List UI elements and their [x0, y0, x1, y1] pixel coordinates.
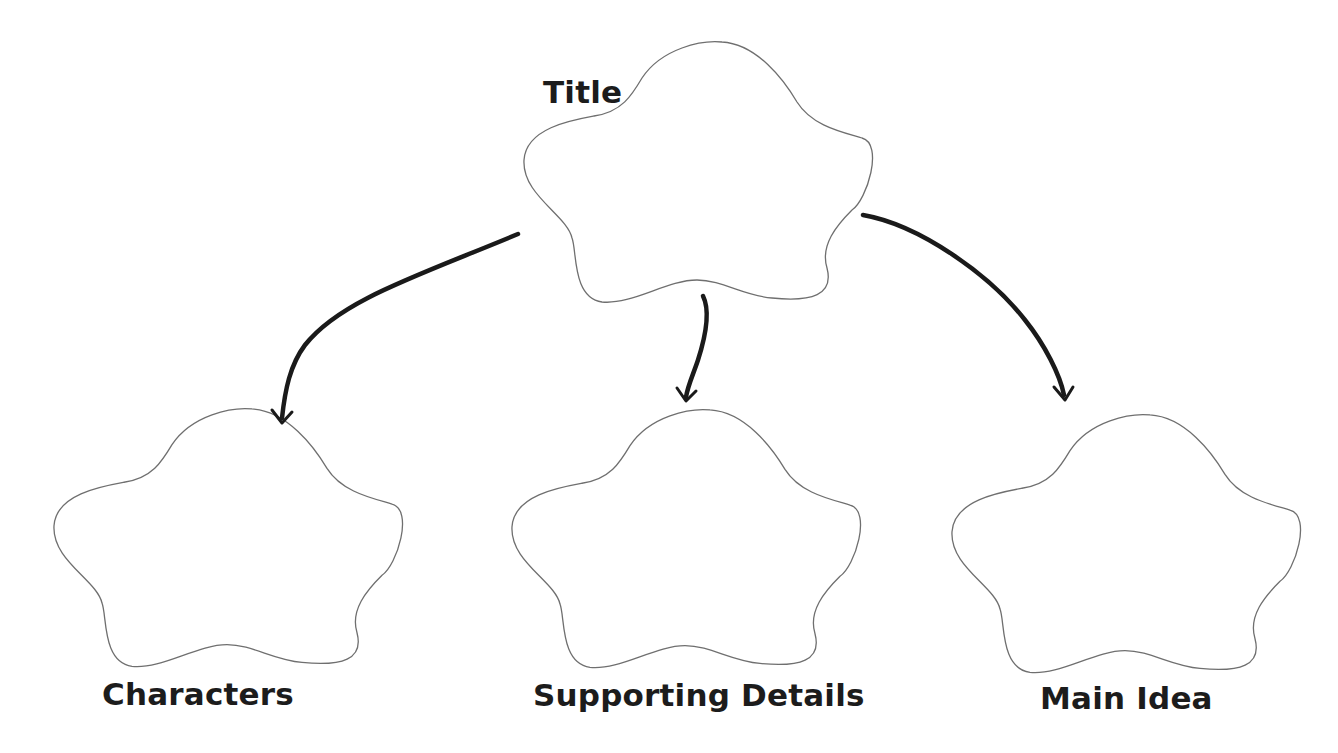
label-characters: Characters — [102, 676, 294, 712]
label-main-idea: Main Idea — [1040, 680, 1213, 716]
flower-main-idea — [952, 415, 1301, 673]
label-supporting-details: Supporting Details — [533, 677, 865, 713]
arrow-to-characters — [272, 234, 518, 423]
diagram-canvas — [0, 0, 1338, 753]
label-title: Title — [543, 74, 622, 110]
arrow-to-main-idea — [863, 215, 1073, 400]
flower-supporting-details — [512, 410, 861, 668]
arrow-to-supporting-details — [677, 296, 707, 401]
flower-characters — [54, 409, 403, 667]
